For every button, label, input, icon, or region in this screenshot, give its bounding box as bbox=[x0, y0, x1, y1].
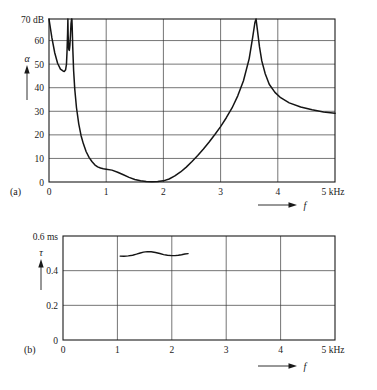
panel-a-label: (a) bbox=[10, 186, 21, 198]
panel-b-horizontal-gridlines bbox=[63, 271, 335, 306]
panel-b-x-axis-symbol-group: f bbox=[258, 361, 308, 372]
panel-b-y-axis-symbol: τ bbox=[39, 247, 43, 258]
panel-b-y-tick-04: 0.4 bbox=[46, 266, 58, 276]
panel-b: 0.6 ms 0.4 0.2 0 0 1 2 3 4 5 kHz τ bbox=[24, 232, 344, 372]
panel-a-x-tick-2: 2 bbox=[161, 187, 166, 197]
panel-a-y-tick-30: 30 bbox=[35, 107, 45, 117]
panel-b-x-tick-labels: 0 1 2 3 4 5 kHz bbox=[61, 345, 345, 355]
panel-a-y-tick-20: 20 bbox=[35, 130, 45, 140]
panel-b-y-tick-labels: 0.6 ms 0.4 0.2 0 bbox=[33, 232, 59, 346]
panel-a-x-arrow-head bbox=[289, 202, 298, 207]
panel-b-x-tick-2: 2 bbox=[169, 345, 174, 355]
panel-b-x-tick-0: 0 bbox=[61, 345, 66, 355]
panel-a-y-axis-symbol: α bbox=[24, 53, 30, 64]
panel-b-y-axis-symbol-group: τ bbox=[38, 247, 43, 290]
panel-b-x-arrow-head bbox=[289, 363, 298, 368]
panel-b-x-tick-4: 4 bbox=[278, 345, 283, 355]
panel-a-y-tick-40: 40 bbox=[35, 83, 45, 93]
panel-a-x-tick-1: 1 bbox=[104, 187, 109, 197]
panel-a-x-axis-symbol-group: f bbox=[258, 200, 308, 211]
panel-b-label: (b) bbox=[24, 344, 36, 356]
panel-a-x-tick-labels: 0 1 2 3 4 5 kHz bbox=[47, 187, 345, 197]
panel-a-x-tick-4: 4 bbox=[275, 187, 280, 197]
panel-a-plot-frame bbox=[49, 19, 335, 182]
figure-container: 70 dB 60 50 40 30 20 10 0 0 1 2 3 4 5 kH… bbox=[0, 0, 377, 390]
panel-a-y-tick-0: 0 bbox=[39, 178, 44, 188]
panel-b-x-end-label: 5 kHz bbox=[322, 345, 345, 355]
panel-a-y-tick-60: 60 bbox=[35, 36, 45, 46]
panel-a-y-tick-labels: 70 dB 60 50 40 30 20 10 0 bbox=[21, 15, 44, 188]
panel-b-plot-frame bbox=[63, 236, 335, 340]
panel-a-x-tick-3: 3 bbox=[218, 187, 223, 197]
panel-a-x-end-label: 5 kHz bbox=[322, 187, 345, 197]
panel-b-group-delay-curve bbox=[120, 252, 188, 257]
panel-a-y-tick-50: 50 bbox=[35, 60, 45, 70]
panel-b-y-arrow-head bbox=[38, 259, 43, 268]
panel-a-x-axis-symbol: f bbox=[304, 200, 308, 211]
panel-a: 70 dB 60 50 40 30 20 10 0 0 1 2 3 4 5 kH… bbox=[10, 15, 344, 211]
panel-b-y-tick-0: 0 bbox=[53, 336, 58, 346]
two-panel-frequency-response-figure: 70 dB 60 50 40 30 20 10 0 0 1 2 3 4 5 kH… bbox=[0, 0, 377, 390]
panel-b-x-tick-3: 3 bbox=[224, 345, 229, 355]
panel-a-y-arrow-head bbox=[24, 65, 29, 74]
panel-b-x-axis-symbol: f bbox=[304, 361, 308, 372]
panel-b-x-tick-1: 1 bbox=[115, 345, 120, 355]
panel-b-vertical-gridlines bbox=[117, 236, 280, 340]
panel-a-y-axis-symbol-group: α bbox=[24, 53, 30, 100]
panel-a-y-tick-10: 10 bbox=[35, 154, 45, 164]
panel-b-y-tick-02: 0.2 bbox=[46, 301, 58, 311]
panel-a-horizontal-gridlines bbox=[49, 41, 335, 159]
panel-a-x-tick-0: 0 bbox=[47, 187, 52, 197]
panel-a-attenuation-curve bbox=[49, 19, 335, 182]
panel-b-y-top-label: 0.6 ms bbox=[33, 232, 59, 242]
panel-a-y-top-label: 70 dB bbox=[21, 15, 44, 25]
